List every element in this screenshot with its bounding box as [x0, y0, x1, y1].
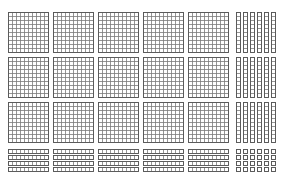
- unit-cube: [264, 149, 269, 154]
- unit-cube-square: [236, 167, 241, 172]
- hundred-flat-grid: [98, 102, 139, 143]
- hundred-flat: [53, 12, 94, 53]
- ten-rod-grid: [243, 102, 248, 143]
- unit-cube: [257, 161, 262, 166]
- unit-cube: [264, 167, 269, 172]
- unit-cube: [250, 149, 255, 154]
- ten-rod-vertical: [257, 12, 262, 53]
- hundred-flat: [8, 57, 49, 98]
- ten-rod-vertical: [250, 57, 255, 98]
- ten-rod-horizontal: [8, 155, 49, 160]
- hundred-flat: [98, 12, 139, 53]
- ten-rod-horizontal: [53, 161, 94, 166]
- ten-rod-grid: [53, 161, 94, 166]
- ten-rod-grid: [243, 57, 248, 98]
- unit-cube: [271, 167, 276, 172]
- ten-rod-grid: [257, 102, 262, 143]
- unit-cube-square: [243, 167, 248, 172]
- hundred-flat-grid: [143, 12, 184, 53]
- ten-rod-horizontal: [188, 161, 229, 166]
- unit-cube: [243, 155, 248, 160]
- unit-cube: [236, 155, 241, 160]
- ten-rod-vertical: [257, 57, 262, 98]
- ten-rod-grid: [264, 12, 269, 53]
- ten-rod-grid: [98, 149, 139, 154]
- hundred-flat: [188, 12, 229, 53]
- ten-rod-grid: [143, 155, 184, 160]
- ten-rod-grid: [264, 57, 269, 98]
- unit-cube-square: [250, 149, 255, 154]
- unit-cube-square: [243, 149, 248, 154]
- ten-rod-vertical: [250, 12, 255, 53]
- ten-rod-horizontal: [8, 161, 49, 166]
- unit-cube: [250, 155, 255, 160]
- ten-rod-horizontal: [143, 155, 184, 160]
- ten-rod-grid: [188, 167, 229, 172]
- hundred-flat: [143, 57, 184, 98]
- unit-cube: [257, 155, 262, 160]
- ten-rod-horizontal: [188, 167, 229, 172]
- hundred-flat-grid: [53, 12, 94, 53]
- hundred-flat: [8, 12, 49, 53]
- unit-cube-square: [264, 167, 269, 172]
- ten-rod-horizontal: [98, 161, 139, 166]
- ten-rod-grid: [8, 155, 49, 160]
- hundred-flat: [98, 102, 139, 143]
- unit-cube: [236, 149, 241, 154]
- unit-cube-square: [236, 161, 241, 166]
- ten-rod-horizontal: [98, 149, 139, 154]
- ten-rod-grid: [250, 57, 255, 98]
- hundred-flat-grid: [8, 102, 49, 143]
- unit-cube: [257, 149, 262, 154]
- ten-rod-grid: [98, 161, 139, 166]
- ten-rod-grid: [188, 161, 229, 166]
- hundred-flat: [188, 57, 229, 98]
- hundred-flat: [98, 57, 139, 98]
- ten-rod-grid: [236, 102, 241, 143]
- ten-rod-vertical: [236, 102, 241, 143]
- unit-cube-square: [271, 167, 276, 172]
- ten-rod-vertical: [250, 102, 255, 143]
- ten-rod-grid: [188, 155, 229, 160]
- ten-rod-vertical: [243, 12, 248, 53]
- ten-rod-grid: [98, 167, 139, 172]
- hundred-flat-grid: [143, 102, 184, 143]
- unit-cube-square: [250, 167, 255, 172]
- ten-rod-vertical: [264, 12, 269, 53]
- unit-cube-square: [257, 167, 262, 172]
- unit-cube-square: [250, 155, 255, 160]
- ten-rod-horizontal: [188, 155, 229, 160]
- ten-rod-horizontal: [98, 167, 139, 172]
- ten-rod-vertical: [271, 12, 276, 53]
- ten-rod-grid: [243, 12, 248, 53]
- ten-rod-grid: [53, 155, 94, 160]
- unit-cube-square: [257, 161, 262, 166]
- hundred-flat: [143, 102, 184, 143]
- unit-cube-square: [264, 149, 269, 154]
- unit-cube: [257, 167, 262, 172]
- ten-rod-grid: [271, 102, 276, 143]
- hundred-flat-grid: [188, 12, 229, 53]
- unit-cube: [243, 149, 248, 154]
- ten-rod-horizontal: [53, 155, 94, 160]
- unit-cube-square: [271, 149, 276, 154]
- unit-cube: [250, 161, 255, 166]
- unit-cube-square: [250, 161, 255, 166]
- hundred-flat-grid: [53, 102, 94, 143]
- ten-rod-grid: [53, 167, 94, 172]
- ten-rod-grid: [143, 167, 184, 172]
- hundred-flat-grid: [188, 57, 229, 98]
- ten-rod-vertical: [243, 57, 248, 98]
- unit-cube-square: [243, 155, 248, 160]
- ten-rod-horizontal: [53, 167, 94, 172]
- unit-cube: [236, 167, 241, 172]
- hundred-flat: [8, 102, 49, 143]
- ten-rod-grid: [188, 149, 229, 154]
- ten-rod-grid: [257, 12, 262, 53]
- ten-rod-horizontal: [188, 149, 229, 154]
- unit-cube: [236, 161, 241, 166]
- ten-rod-vertical: [264, 102, 269, 143]
- unit-cube: [250, 167, 255, 172]
- ten-rod-horizontal: [143, 161, 184, 166]
- ten-rod-grid: [271, 57, 276, 98]
